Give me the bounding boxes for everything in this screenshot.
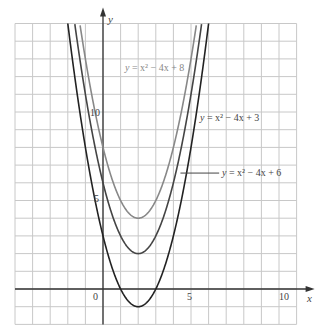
curve-label-plus-6-eq: = x² − 4x + 6 — [226, 167, 281, 178]
curve-label-plus-6: y = x² − 4x + 6 — [222, 168, 281, 178]
curve-label-plus-8: y = x² − 4x + 8 — [125, 63, 184, 73]
x-tick-5: 5 — [187, 292, 192, 302]
x-tick-10: 10 — [279, 292, 289, 302]
axes — [15, 8, 315, 325]
curve-label-plus-8-eq: = x² − 4x + 8 — [129, 62, 184, 73]
x-axis-label: x — [307, 293, 312, 304]
curve-label-plus-3-eq: = x² − 4x + 3 — [204, 112, 259, 123]
curve-label-plus-3: y = x² − 4x + 3 — [200, 113, 259, 123]
y-tick-10: 10 — [90, 108, 100, 118]
y-tick-5: 5 — [94, 194, 99, 204]
y-axis-label: y — [108, 14, 113, 25]
origin-label: 0 — [93, 292, 98, 302]
